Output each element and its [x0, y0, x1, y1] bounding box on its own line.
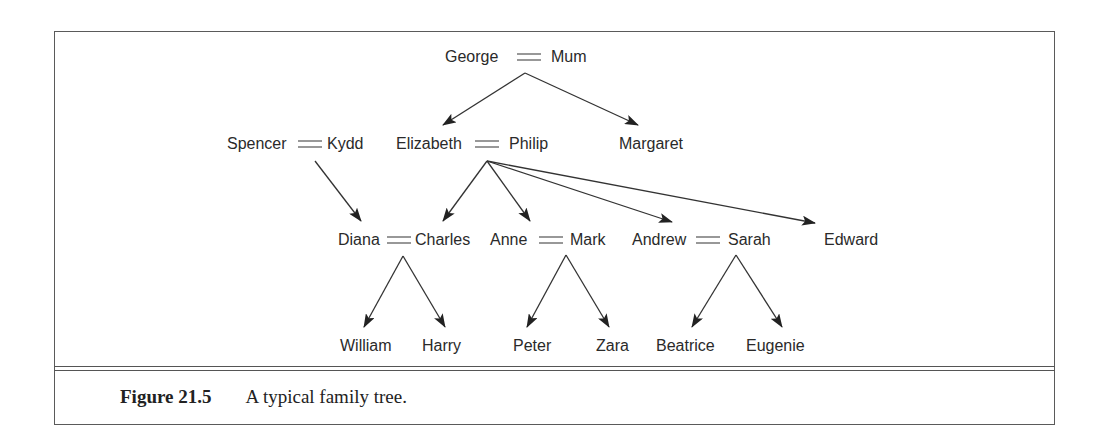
node-harry: Harry: [422, 337, 461, 355]
marriage-anne-mark: [539, 237, 563, 244]
tree-edges: [0, 0, 1103, 441]
node-elizabeth: Elizabeth: [396, 135, 462, 153]
marriage-george-mum: [517, 54, 541, 61]
node-charles: Charles: [415, 231, 470, 249]
edge-elizabeth-edward: [487, 161, 815, 223]
node-philip: Philip: [509, 135, 548, 153]
node-sarah: Sarah: [728, 231, 771, 249]
node-beatrice: Beatrice: [656, 337, 715, 355]
node-anne: Anne: [490, 231, 527, 249]
node-margaret: Margaret: [619, 135, 683, 153]
marriage-spencer-kydd: [298, 141, 322, 148]
marriage-elizabeth-philip: [475, 141, 499, 148]
edge-elizabeth-charles: [443, 161, 487, 221]
edge-spencer-diana: [315, 161, 361, 221]
node-andrew: Andrew: [632, 231, 686, 249]
edge-elizabeth-anne: [487, 161, 530, 221]
node-mum: Mum: [551, 48, 587, 66]
edge-andrew-beatrice: [692, 255, 736, 327]
node-zara: Zara: [596, 337, 629, 355]
node-william: William: [340, 337, 392, 355]
node-eugenie: Eugenie: [746, 337, 805, 355]
edge-diana-william: [364, 256, 403, 327]
node-peter: Peter: [513, 337, 551, 355]
node-kydd: Kydd: [327, 135, 363, 153]
edge-anne-zara: [566, 255, 609, 327]
node-george: George: [445, 48, 498, 66]
edge-diana-harry: [403, 256, 445, 327]
edge-elizabeth-andrew: [487, 161, 672, 222]
edge-george-elizabeth: [443, 73, 525, 125]
marriage-diana-charles: [387, 237, 411, 244]
node-mark: Mark: [570, 231, 606, 249]
figure-caption-text: A typical family tree.: [245, 386, 406, 407]
figure-label: Figure 21.5: [120, 386, 211, 407]
figure-caption: Figure 21.5A typical family tree.: [120, 386, 407, 408]
edge-anne-peter: [527, 255, 566, 327]
edge-george-margaret: [525, 73, 638, 125]
marriage-andrew-sarah: [696, 237, 720, 244]
edge-andrew-eugenie: [736, 255, 782, 327]
node-spencer: Spencer: [227, 135, 287, 153]
node-edward: Edward: [824, 231, 878, 249]
node-diana: Diana: [338, 231, 380, 249]
